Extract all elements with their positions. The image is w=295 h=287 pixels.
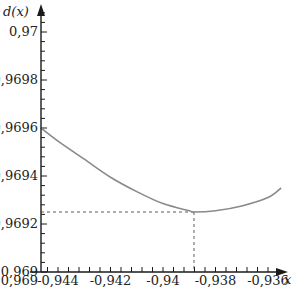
y-tick-label: 0,97	[9, 24, 38, 39]
x-tick-label: -0,936	[247, 273, 289, 287]
y-tick-label: 0,9698	[0, 72, 38, 87]
y-axis-ticks: 0,9690,96920,96940,96960,96980,97	[0, 13, 47, 279]
origin-y-label: 0,969	[1, 273, 38, 287]
min-guides	[41, 212, 194, 272]
data-curve	[41, 128, 281, 212]
y-tick-label: 0,9692	[0, 216, 38, 231]
chart: 0,9690,96920,96940,96960,96980,97 -0,944…	[0, 0, 295, 287]
y-axis-label: d(x)	[3, 4, 29, 19]
y-tick-label: 0,9694	[0, 168, 38, 183]
y-tick-label: 0,9696	[0, 120, 38, 135]
x-tick-label: -0,942	[90, 273, 132, 287]
y-axis-arrow-icon	[37, 4, 45, 16]
x-tick-label: -0,944	[37, 273, 79, 287]
x-axis-label: x	[284, 272, 292, 287]
x-tick-label: -0,938	[195, 273, 237, 287]
x-axis-ticks: -0,944-0,942-0,94-0,938-0,9360,969	[1, 267, 289, 287]
x-tick-label: -0,94	[146, 273, 179, 287]
